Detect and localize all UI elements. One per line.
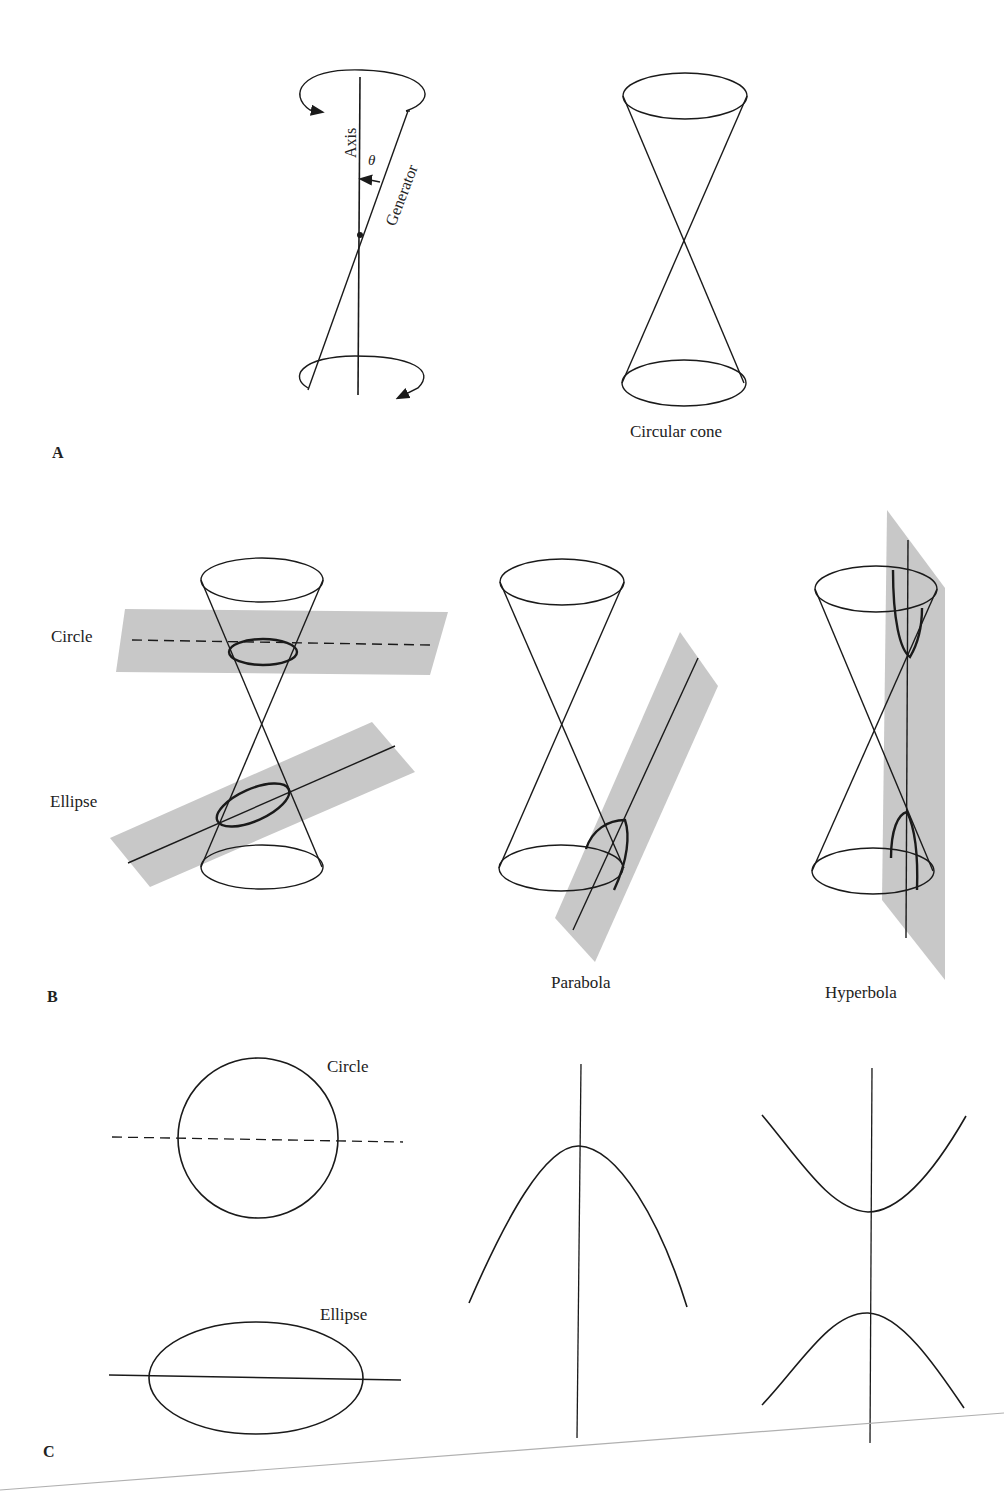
vertex-point [357,232,363,238]
panel-b [110,510,945,980]
panel-letter-b: B [47,988,58,1006]
ellipse-label-b: Ellipse [50,792,97,812]
hyperbola-axis [870,1068,872,1443]
panel-c [109,1058,966,1443]
axis-label: Axis [342,128,360,158]
parabola-curve [469,1146,687,1307]
circle-curve [178,1058,338,1218]
ellipse-axis [109,1375,401,1380]
panel-a [299,70,747,406]
conic-sections-figure [0,0,1004,1493]
parabola-cutting-plane [555,632,718,962]
hyperbola-lower-curve [762,1313,964,1408]
panel-letter-c: C [43,1443,55,1461]
top-rotation-arrow [300,70,425,112]
circle-label-b: Circle [51,627,93,647]
circular-cone-caption: Circular cone [630,422,722,442]
parabola-axis [577,1064,581,1438]
circle-dashed-axis [112,1137,403,1142]
hyperbola-caption: Hyperbola [825,983,897,1003]
parabola-caption: Parabola [551,973,610,993]
cone-top-ellipse [623,73,747,119]
circular-cone-diagram [622,73,747,406]
cone-bottom-ellipse [622,360,746,406]
theta-label: θ [368,152,375,169]
cone-generation-diagram [299,70,425,398]
hyperbola-cutting-plane [882,510,945,980]
ellipse-label-c: Ellipse [320,1305,367,1325]
theta-arc-icon [361,179,380,182]
circle-label-c: Circle [327,1057,369,1077]
page-edge-line [0,1413,1004,1490]
panel-letter-a: A [52,444,64,462]
hyperbola-upper-curve [762,1115,966,1212]
